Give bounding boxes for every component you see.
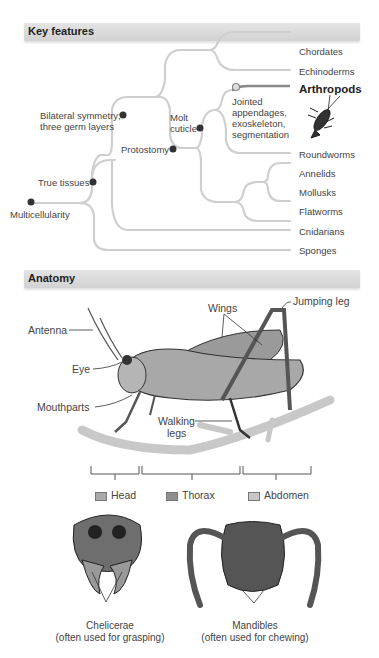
label-wings: Wings — [208, 303, 237, 314]
mandibles-desc: (often used for chewing) — [190, 632, 320, 644]
head-swatch — [95, 492, 107, 501]
label-walking-legs-2: legs — [167, 428, 186, 439]
thorax-swatch — [166, 492, 178, 501]
chelicerae-name: Chelicerae — [45, 620, 175, 632]
label-mouthparts: Mouthparts — [37, 402, 90, 413]
legend-thorax: Thorax — [166, 489, 215, 501]
legend-head: Head — [95, 489, 136, 501]
label-eye: Eye — [72, 364, 90, 375]
chelicerae-desc: (often used for grasping) — [45, 632, 175, 644]
spider-head-illustration — [73, 515, 141, 602]
chelicerae-caption: Chelicerae (often used for grasping) — [45, 620, 175, 644]
legend-abdomen: Abdomen — [248, 489, 309, 501]
mandibles-name: Mandibles — [190, 620, 320, 632]
mandibles-caption: Mandibles (often used for chewing) — [190, 620, 320, 644]
label-antenna: Antenna — [28, 325, 67, 336]
label-jumping-leg: Jumping leg — [293, 296, 350, 307]
ant-head-illustration — [190, 522, 319, 606]
abdomen-swatch — [248, 492, 260, 501]
label-walking-legs-1: Walking — [158, 416, 195, 427]
